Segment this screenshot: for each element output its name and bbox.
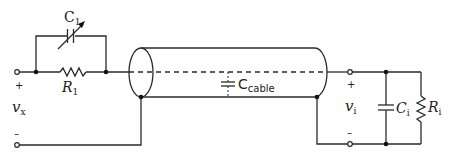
junction-dot bbox=[34, 70, 39, 75]
ci-label: Ci bbox=[396, 100, 410, 118]
scope-input-section: + vi – Ci Ri bbox=[317, 70, 442, 147]
junction-dot bbox=[384, 70, 389, 75]
variable-capacitor-c1-icon bbox=[58, 21, 85, 49]
resistor-r1-icon bbox=[60, 68, 86, 76]
output-terminal-plus bbox=[348, 70, 353, 75]
input-ground-wire bbox=[19, 97, 141, 145]
input-section: C1 R1 + vx – bbox=[12, 9, 141, 147]
ri-label: Ri bbox=[427, 99, 442, 117]
input-terminal-minus bbox=[15, 143, 20, 148]
output-ground-wire bbox=[317, 97, 348, 144]
vi-plus-sign: + bbox=[347, 79, 355, 90]
vx-label: vx bbox=[12, 98, 26, 117]
resistor-ri-icon bbox=[417, 96, 425, 122]
vx-minus-sign: – bbox=[14, 128, 19, 139]
capacitor-ci-icon bbox=[378, 105, 394, 110]
output-terminal-minus bbox=[348, 142, 353, 147]
junction-dot bbox=[104, 70, 109, 75]
r1-label: R1 bbox=[61, 79, 78, 97]
coaxial-cable: Ccable bbox=[129, 48, 327, 99]
vi-label: vi bbox=[345, 97, 356, 116]
junction-dot bbox=[139, 95, 144, 100]
vi-minus-sign: – bbox=[347, 127, 352, 138]
circuit-diagram: C1 R1 + vx – Ccable bbox=[0, 0, 453, 156]
ccable-label: Ccable bbox=[238, 76, 275, 94]
vx-plus-sign: + bbox=[15, 80, 23, 91]
input-terminal-plus bbox=[15, 70, 20, 75]
junction-dot bbox=[384, 142, 389, 147]
capacitor-ccable-icon bbox=[221, 72, 235, 97]
c1-label: C1 bbox=[64, 9, 80, 27]
